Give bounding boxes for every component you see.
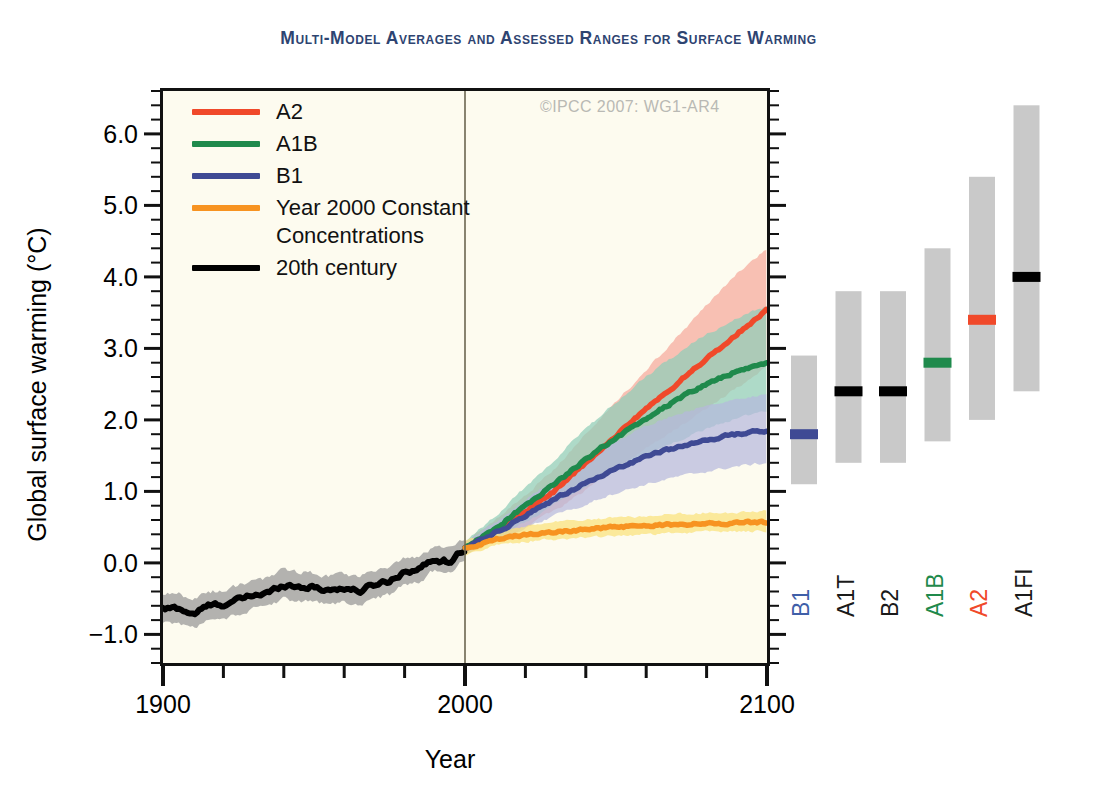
range-bar-label-a1fi: A1FI — [1011, 568, 1038, 617]
range-bar-a1b[interactable] — [925, 248, 951, 441]
best-estimate-marker-b1 — [790, 429, 818, 439]
range-bar-label-b1: B1 — [788, 589, 815, 617]
best-estimate-marker-a1t — [835, 386, 863, 396]
range-bar-a1fi[interactable] — [1014, 105, 1040, 391]
range-bar-label-a2: A2 — [966, 589, 993, 617]
range-bar-label-a1b: A1B — [922, 574, 949, 617]
range-bar-label-a1t: A1T — [833, 575, 860, 617]
best-estimate-marker-b2 — [879, 386, 907, 396]
best-estimate-marker-a1fi — [1013, 272, 1041, 282]
range-bar-b1[interactable] — [791, 356, 817, 485]
range-bar-b2[interactable] — [880, 291, 906, 463]
assessed-ranges-panel — [0, 0, 1097, 803]
range-bar-a1t[interactable] — [836, 291, 862, 463]
range-bar-a2[interactable] — [969, 177, 995, 420]
range-bar-label-b2: B2 — [877, 589, 904, 617]
best-estimate-marker-a1b — [924, 358, 952, 368]
best-estimate-marker-a2 — [968, 315, 996, 325]
figure-root: Multi-Model Averages and Assessed Ranges… — [0, 0, 1097, 803]
